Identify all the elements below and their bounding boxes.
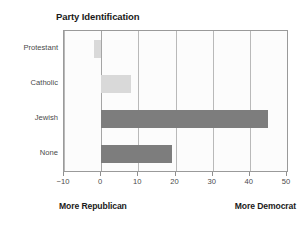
category-label-none: None: [40, 149, 58, 157]
bar-jewish: [101, 110, 268, 128]
x-tick-label: 30: [207, 178, 215, 186]
bar-row: [64, 136, 287, 171]
x-tick-label: 10: [133, 178, 141, 186]
x-tick-mark: [212, 172, 213, 176]
category-label-jewish: Jewish: [35, 114, 58, 122]
x-tick-mark: [175, 172, 176, 176]
x-tick-mark: [137, 172, 138, 176]
plot-area: [63, 30, 288, 172]
bar-protestant: [94, 40, 101, 58]
x-tick-mark: [63, 172, 64, 176]
annotation-more-republican: More Republican: [59, 201, 127, 211]
x-tick-label: 50: [282, 178, 290, 186]
x-tick-mark: [286, 172, 287, 176]
gridline-50: [287, 31, 288, 171]
chart-title: Party Identification: [56, 11, 140, 22]
x-tick-mark: [100, 172, 101, 176]
chart-figure: Party Identification ProtestantCatholicJ…: [0, 0, 307, 226]
x-tick-label: 0: [98, 178, 102, 186]
bar-row: [64, 66, 287, 101]
x-tick-label: 20: [170, 178, 178, 186]
x-tick-mark: [249, 172, 250, 176]
bar-catholic: [101, 75, 131, 93]
annotation-more-democrat: More Democrat: [235, 201, 296, 211]
bar-row: [64, 31, 287, 66]
x-tick-label: 40: [245, 178, 253, 186]
category-label-catholic: Catholic: [31, 79, 58, 87]
bar-none: [101, 145, 172, 163]
x-tick-label: −10: [57, 178, 70, 186]
bar-row: [64, 101, 287, 136]
category-label-protestant: Protestant: [23, 44, 58, 52]
